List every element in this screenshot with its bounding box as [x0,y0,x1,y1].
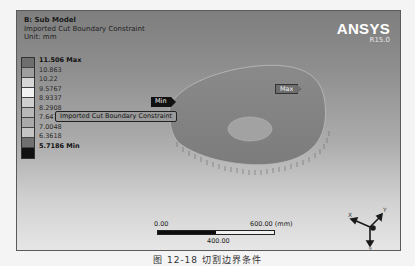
graphics-viewport[interactable]: B: Sub Model Imported Cut Boundary Const… [16,10,401,251]
scale-end-label: 600.00 (mm) [250,220,293,228]
disk-surface [169,65,326,164]
scale-start-label: 0.00 [154,220,168,228]
x-axis-arrow-icon [351,218,357,223]
triad-y-label: Y [382,206,387,213]
boundary-constraint-tag[interactable]: Imported Cut Boundary Constraint [55,111,177,122]
axis-triad[interactable]: X Y Z [345,199,395,251]
triad-z-label: Z [368,246,372,251]
min-probe-tag[interactable]: Min [151,97,171,107]
triad-x-label: X [348,211,352,218]
scale-bar-track [157,230,275,235]
figure-caption: 图 12-18 切割边界条件 [0,253,415,266]
scale-bar-fill [158,231,216,234]
sub-model-geometry[interactable] [17,11,401,251]
max-probe-tag[interactable]: Max [275,84,298,94]
scale-mid-label: 400.00 [207,237,230,245]
inner-region [228,117,272,141]
triad-origin [371,226,375,230]
